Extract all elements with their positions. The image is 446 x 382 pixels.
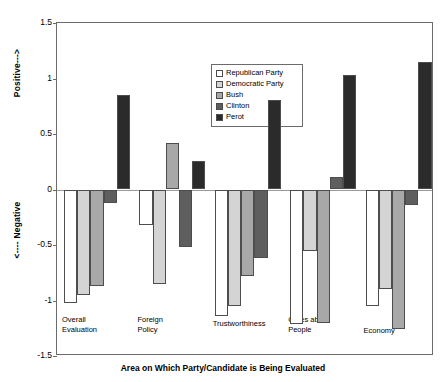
bar — [317, 190, 330, 323]
category-label: Trustworthiness — [213, 319, 266, 329]
legend-label: Bush — [226, 91, 243, 99]
bar — [77, 190, 90, 295]
legend-item: Clinton — [216, 101, 298, 112]
bar — [343, 75, 356, 189]
legend-item: Perot — [216, 112, 298, 123]
legend-label: Clinton — [226, 102, 249, 110]
bar-chart: Positive---> <---- Negative 1.510.50-0.5… — [0, 0, 446, 382]
bar — [104, 190, 117, 203]
bar — [192, 161, 205, 190]
y-tick-mark — [53, 356, 57, 357]
category-label: Economy — [364, 326, 395, 336]
legend-swatch-icon — [216, 92, 223, 99]
legend-swatch-icon — [216, 103, 223, 110]
legend-item: Democratic Party — [216, 79, 298, 90]
legend-label: Perot — [226, 113, 244, 121]
legend-swatch-icon — [216, 70, 223, 77]
bar — [290, 190, 303, 324]
bar — [228, 190, 241, 307]
y-tick-label: 1.5 — [22, 17, 52, 27]
bar — [241, 190, 254, 277]
category-label: Foreign Policy — [137, 315, 162, 334]
bar — [366, 190, 379, 307]
bar — [166, 143, 179, 190]
plot-area: Overall EvaluationForeign PolicyTrustwor… — [56, 22, 433, 355]
bar — [117, 95, 130, 189]
y-tick-label: -0.5 — [22, 239, 52, 249]
bar — [64, 190, 77, 303]
legend-swatch-icon — [216, 114, 223, 121]
bar — [418, 62, 431, 190]
y-tick-label: 0.5 — [22, 128, 52, 138]
bar — [379, 190, 392, 290]
y-tick-label: -1 — [22, 295, 52, 305]
bar — [405, 190, 418, 206]
bar — [268, 100, 281, 190]
y-tick-label: -1.5 — [22, 350, 52, 360]
bar — [179, 190, 192, 248]
legend-label: Republican Party — [226, 69, 283, 77]
legend-swatch-icon — [216, 81, 223, 88]
bar — [303, 190, 316, 251]
legend-item: Republican Party — [216, 68, 298, 79]
y-axis-tick-labels: 1.510.50-0.5-1-1.5 — [14, 0, 52, 382]
bar — [330, 177, 343, 189]
bar — [139, 190, 152, 226]
bar — [153, 190, 166, 284]
bar — [215, 190, 228, 317]
legend-label: Democratic Party — [226, 80, 284, 88]
legend-item: Bush — [216, 90, 298, 101]
bar — [392, 190, 405, 330]
category-label: Overall Evaluation — [62, 315, 97, 334]
y-tick-label: 1 — [22, 73, 52, 83]
bar — [254, 190, 267, 259]
y-tick-label: 0 — [22, 184, 52, 194]
x-axis-title: Area on Which Party/Candidate is Being E… — [0, 363, 446, 373]
legend: Republican PartyDemocratic PartyBushClin… — [211, 64, 303, 127]
bar — [90, 190, 103, 287]
